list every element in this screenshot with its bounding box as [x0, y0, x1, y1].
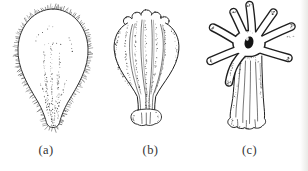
page-edge-shading [300, 0, 308, 171]
settled-larva-lobed-bud-illustration [114, 9, 179, 126]
panel-label-b: (b) [127, 142, 175, 158]
illustration-canvas: (a) (b) (c) [0, 0, 308, 171]
planula-larva-illustration [13, 4, 94, 133]
panel-label-a: (a) [22, 142, 70, 158]
panel-label-c: (c) [226, 142, 274, 158]
young-scyphistoma-polyp-illustration [210, 3, 294, 130]
bulb-body [114, 15, 179, 112]
